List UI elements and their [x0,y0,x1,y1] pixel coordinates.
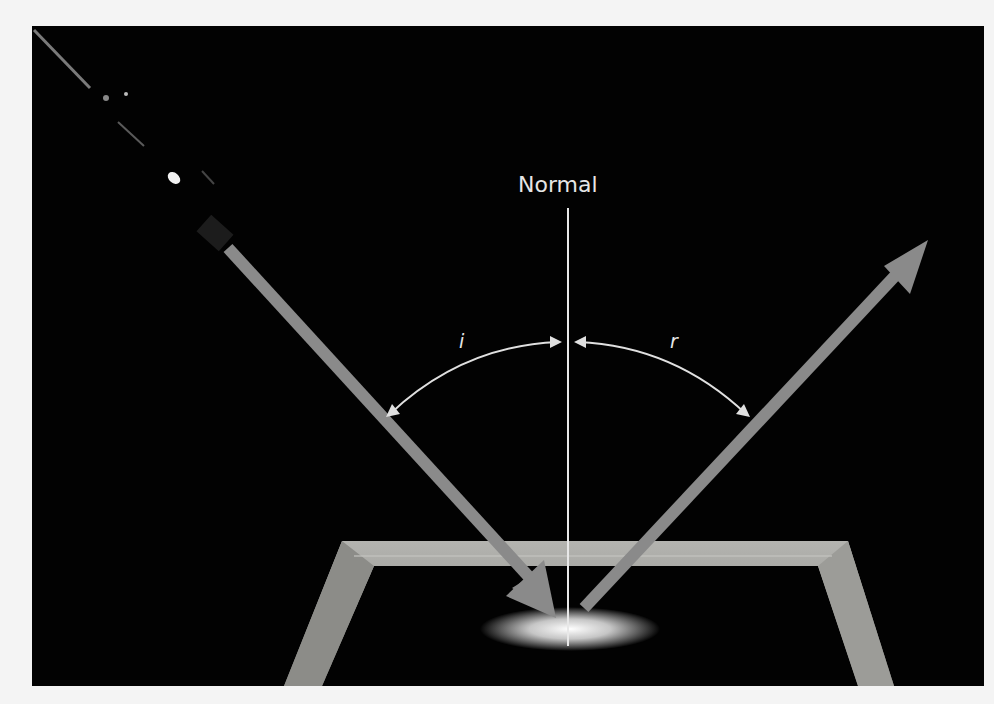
reflection-photo: Normal i r [32,26,984,686]
incidence-angle-label: i [459,330,464,352]
reflection-diagram [32,26,984,686]
laser-source [34,30,234,251]
normal-label: Normal [518,172,598,197]
reflection-spot [480,607,660,651]
reflection-angle-label: r [670,330,678,352]
angle-i-arc [386,336,562,417]
angle-r-arc [574,336,750,417]
